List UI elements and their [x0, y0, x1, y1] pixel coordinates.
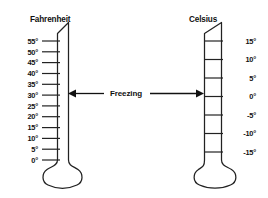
thermometer-comparison-diagram: Fahrenheit 55° 50° — [0, 0, 268, 198]
fahrenheit-title: Fahrenheit — [30, 15, 71, 24]
fahrenheit-tick-label: 50° — [27, 48, 38, 57]
freezing-left-arrow-head — [68, 90, 76, 98]
diagram-canvas: Fahrenheit 55° 50° — [0, 0, 268, 198]
celsius-tick-label: 10° — [245, 55, 256, 64]
celsius-tick-label: 15° — [245, 37, 256, 46]
celsius-tick-label: -10° — [243, 129, 256, 138]
fahrenheit-tick-label: 30° — [27, 91, 38, 100]
fahrenheit-tick-label: 40° — [27, 69, 38, 78]
fahrenheit-tick-label: 10° — [27, 134, 38, 143]
freezing-right-arrow-head — [196, 90, 204, 98]
fahrenheit-tick-label: 35° — [27, 80, 38, 89]
celsius-tick-label: 0° — [249, 92, 256, 101]
fahrenheit-tick-label: 45° — [27, 58, 38, 67]
celsius-glass-body — [194, 23, 236, 189]
fahrenheit-tick-label: 5° — [31, 145, 38, 154]
celsius-tick-label: -5° — [247, 111, 256, 120]
fahrenheit-tick-label: 15° — [27, 123, 38, 132]
fahrenheit-tick-label: 55° — [27, 37, 38, 46]
fahrenheit-tick-label: 20° — [27, 112, 38, 121]
celsius-title: Celsius — [189, 15, 218, 24]
freezing-label: Freezing — [110, 89, 142, 98]
freezing-annotation: Freezing — [68, 89, 204, 98]
fahrenheit-tick-label: 0° — [31, 156, 38, 165]
celsius-tick-marks — [205, 41, 223, 152]
celsius-tick-labels: 15° 10° 5° 0° -5° -10° -15° — [243, 37, 256, 157]
fahrenheit-tick-label: 25° — [27, 102, 38, 111]
celsius-tick-label: -15° — [243, 148, 256, 157]
celsius-thermometer: Celsius 15° 10° 5° 0° -5° -10° -15° — [189, 15, 256, 188]
fahrenheit-tick-labels: 55° 50° 45° 40° 35° 30° 25° 20° 15° 10° … — [27, 37, 38, 165]
fahrenheit-thermometer: Fahrenheit 55° 50° — [27, 15, 82, 188]
celsius-tick-label: 5° — [249, 74, 256, 83]
